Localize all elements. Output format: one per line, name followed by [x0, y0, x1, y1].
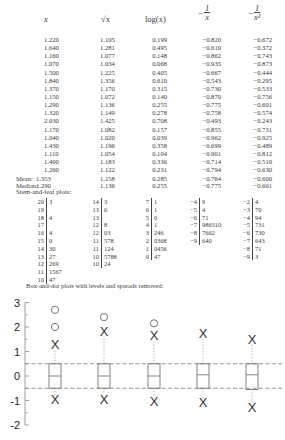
stem: 2: [142, 237, 152, 245]
stem: 3: [142, 229, 152, 237]
table-cell: −0.731: [245, 126, 272, 134]
minus-sign: −: [248, 8, 253, 18]
outlier-circle: [150, 320, 157, 327]
table-cell: −0.862: [194, 52, 221, 60]
stem: −9: [183, 237, 200, 245]
leaf: 0: [152, 214, 157, 222]
table-cell: 0.278: [145, 109, 167, 117]
table-cell: 2.030: [44, 117, 70, 125]
median-sqrt: 1.136: [100, 182, 124, 189]
table-row: 1.1701.0820.157−0.855−0.731: [0, 126, 285, 134]
mean-neg-inv: −0.764: [194, 175, 221, 182]
stem: −4: [236, 214, 253, 222]
stem: −8: [183, 229, 200, 237]
stem-leaf-row: 150: [32, 237, 62, 245]
stem-leaf-row: −494: [236, 214, 265, 222]
adjacent-value-marker: X: [100, 324, 109, 339]
y-tick-label: -1: [10, 395, 20, 407]
mean-neg-inv-sq: −0.600: [245, 175, 272, 182]
stem: 18: [32, 214, 47, 222]
stem-leaf-row: −49: [183, 198, 221, 206]
table-cell: −0.935: [194, 60, 221, 68]
stem-leaf-row: −9640: [183, 237, 221, 245]
adjacent-value-marker: X: [248, 332, 257, 347]
y-tick-label: 1: [14, 346, 20, 358]
table-cell: −0.493: [194, 117, 221, 125]
stem-leaf-row: 143: [87, 198, 117, 206]
table-cell: −0.574: [245, 109, 272, 117]
table-row: 1.2601.1220.231−0.794−0.630: [0, 166, 285, 174]
table-cell: 1.082: [100, 126, 124, 134]
stem: −7: [183, 221, 200, 229]
stem-leaf-row: 1203: [87, 229, 117, 237]
table-row: 1.0401.0200.039−0.962−0.925: [0, 134, 285, 142]
stem: 13: [32, 253, 47, 261]
stem: −8: [236, 245, 253, 253]
table-cell: 1.430: [44, 142, 70, 150]
stem-leaf-row: 1024: [87, 260, 117, 268]
table-cell: 0.405: [145, 69, 167, 77]
median-neg-inv: −0.775: [194, 182, 221, 189]
stem: 14: [87, 198, 102, 206]
stem: 16: [32, 229, 47, 237]
stem: −3: [236, 206, 253, 214]
stem: 13: [87, 206, 102, 214]
table-row: 1.2201.1050.199−0.820−0.672: [0, 36, 285, 44]
table-row: 1.1601.0770.148−0.862−0.743: [0, 52, 285, 60]
stem-leaf-row: 71: [142, 198, 167, 206]
stem-leaf-row: −5731: [236, 221, 265, 229]
table-cell: −0.901: [194, 150, 221, 158]
leaf: 3: [47, 198, 52, 206]
table-cell: 0.140: [145, 93, 167, 101]
stem-leaf-row: −93: [236, 253, 265, 261]
leaf: 94: [253, 214, 261, 222]
adjacent-value-marker: X: [51, 392, 60, 407]
stem-leaf-log: 7161504132462036810456047: [142, 198, 167, 260]
table-cell: 1.149: [100, 109, 124, 117]
leaf: 5788: [102, 253, 117, 261]
stem: 12: [87, 229, 102, 237]
stem-leaf-row: 1327: [32, 253, 62, 261]
stem: −2: [236, 198, 253, 206]
stem-leaf-row: 1430: [32, 245, 62, 253]
leaf: 03: [102, 229, 110, 237]
stem: −9: [236, 253, 253, 261]
leaf: 3: [102, 198, 107, 206]
leaf: 269: [47, 260, 59, 268]
leaf: 70: [253, 206, 261, 214]
leaf: 0368: [152, 237, 167, 245]
stem: −4: [183, 198, 200, 206]
table-cell: 0.231: [145, 166, 167, 174]
table-cell: 0.495: [145, 44, 167, 52]
table-cell: 1.070: [44, 60, 70, 68]
table-cell: −0.489: [245, 142, 272, 150]
table-cell: 0.610: [145, 77, 167, 85]
stem: 5: [142, 214, 152, 222]
leaf: 1: [152, 206, 157, 214]
table-cell: 0.199: [145, 36, 167, 44]
stem: 13: [87, 214, 102, 222]
leaf: 1567: [47, 268, 62, 276]
stem-leaf-row: 184: [32, 214, 62, 222]
leaf: [102, 214, 104, 222]
leaf: 643: [253, 237, 265, 245]
table-cell: −0.758: [194, 109, 221, 117]
table-cell: 1.110: [44, 150, 70, 158]
stem-leaf-row: 3246: [142, 229, 167, 237]
leaf: 1: [152, 198, 157, 206]
leaf: 4: [200, 206, 205, 214]
table-cell: 1.040: [44, 134, 70, 142]
table-cell: 1.105: [100, 36, 124, 44]
table-row: 1.3201.1490.278−0.758−0.574: [0, 109, 285, 117]
table-cell: −0.925: [245, 134, 272, 142]
median-log: 0.255: [145, 182, 167, 189]
outlier-circle: [51, 323, 58, 330]
stem: 15: [32, 237, 47, 245]
table-row: 1.2901.1360.255−0.775−0.601: [0, 101, 285, 109]
table-cell: −0.533: [245, 85, 272, 93]
stem: −7: [236, 237, 253, 245]
box-dot-plot: 3210-1-2XXXXXXXXXX: [0, 290, 285, 440]
table-cell: −0.672: [245, 36, 272, 44]
header-x: x: [44, 14, 48, 24]
table-cell: 1.072: [100, 93, 124, 101]
